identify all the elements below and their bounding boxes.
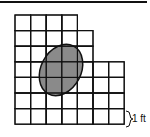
- grid-cell: [15, 46, 31, 62]
- grid-cell: [93, 62, 109, 78]
- grid-cell: [15, 109, 31, 125]
- grid-cell: [15, 15, 31, 31]
- grid-cell: [62, 109, 78, 125]
- grid-figure: [0, 0, 150, 137]
- grid-cell: [93, 93, 109, 109]
- grid-cell: [109, 109, 125, 125]
- grid-cell: [109, 77, 125, 93]
- scale-label: 1 ft: [132, 113, 146, 124]
- grid-cell: [46, 109, 62, 125]
- grid-cell: [62, 15, 78, 31]
- grid-cell: [77, 31, 93, 47]
- grid-cell: [109, 93, 125, 109]
- grid-cell: [15, 93, 31, 109]
- grid-cell: [31, 93, 47, 109]
- grid-cell: [15, 77, 31, 93]
- grid-cell: [15, 109, 31, 125]
- grid-cell: [31, 109, 47, 125]
- grid-cell: [93, 62, 109, 78]
- grid-cell: [31, 31, 47, 47]
- grid-cell: [46, 15, 62, 31]
- grid-cell: [15, 62, 31, 78]
- grid-cell: [15, 31, 31, 47]
- grid-cell: [62, 15, 78, 31]
- grid-cell: [77, 93, 93, 109]
- grid-cell: [46, 31, 62, 47]
- grid-cell: [46, 109, 62, 125]
- grid-cell: [46, 31, 62, 47]
- grid-cell: [15, 46, 31, 62]
- grid-cell: [15, 77, 31, 93]
- grid-cell: [93, 93, 109, 109]
- grid-cell: [62, 109, 78, 125]
- grid-cell: [77, 77, 93, 93]
- grid-cell: [77, 93, 93, 109]
- grid-cell: [109, 93, 125, 109]
- grid-cell: [77, 109, 93, 125]
- grid-cell: [77, 109, 93, 125]
- grid-cell: [31, 15, 47, 31]
- grid-cell: [31, 93, 47, 109]
- grid-cell: [109, 62, 125, 78]
- grid-cell: [31, 109, 47, 125]
- grid-cell: [109, 109, 125, 125]
- grid-cell: [109, 77, 125, 93]
- grid-cell: [15, 93, 31, 109]
- grid-cell: [93, 77, 109, 93]
- grid-cell: [77, 31, 93, 47]
- grid-cell: [31, 31, 47, 47]
- grid-cell: [15, 15, 31, 31]
- grid-cell: [15, 62, 31, 78]
- grid-cell: [15, 31, 31, 47]
- grid-cell: [62, 93, 78, 109]
- grid-cell: [31, 15, 47, 31]
- grid-cell: [77, 77, 93, 93]
- grid-cell: [93, 109, 109, 125]
- grid-cell: [62, 93, 78, 109]
- grid-cell: [109, 62, 125, 78]
- grid-cell: [93, 109, 109, 125]
- grid-cell: [46, 15, 62, 31]
- grid-cell: [93, 77, 109, 93]
